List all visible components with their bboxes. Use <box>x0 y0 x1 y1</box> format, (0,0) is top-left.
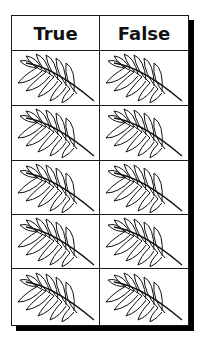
true-cell <box>12 106 100 161</box>
false-cell <box>100 269 188 325</box>
header-false: False <box>100 16 188 51</box>
false-cell <box>100 51 188 106</box>
wheat-ear-icon <box>102 53 186 103</box>
wheat-ear-icon <box>14 53 98 103</box>
false-cell <box>100 161 188 215</box>
wheat-ear-icon <box>102 217 186 267</box>
wheat-ear-icon <box>14 217 98 267</box>
true-false-table: True False <box>11 15 189 326</box>
true-cell <box>12 51 100 106</box>
false-cell <box>100 215 188 269</box>
header-true: True <box>12 16 100 51</box>
true-cell <box>12 215 100 269</box>
false-cell <box>100 106 188 161</box>
wheat-ear-icon <box>14 163 98 213</box>
true-cell <box>12 269 100 325</box>
wheat-ear-icon <box>102 163 186 213</box>
wheat-ear-icon <box>102 108 186 158</box>
wheat-ear-icon <box>14 108 98 158</box>
true-cell <box>12 161 100 215</box>
wheat-ear-icon <box>102 272 186 322</box>
wheat-ear-icon <box>14 272 98 322</box>
